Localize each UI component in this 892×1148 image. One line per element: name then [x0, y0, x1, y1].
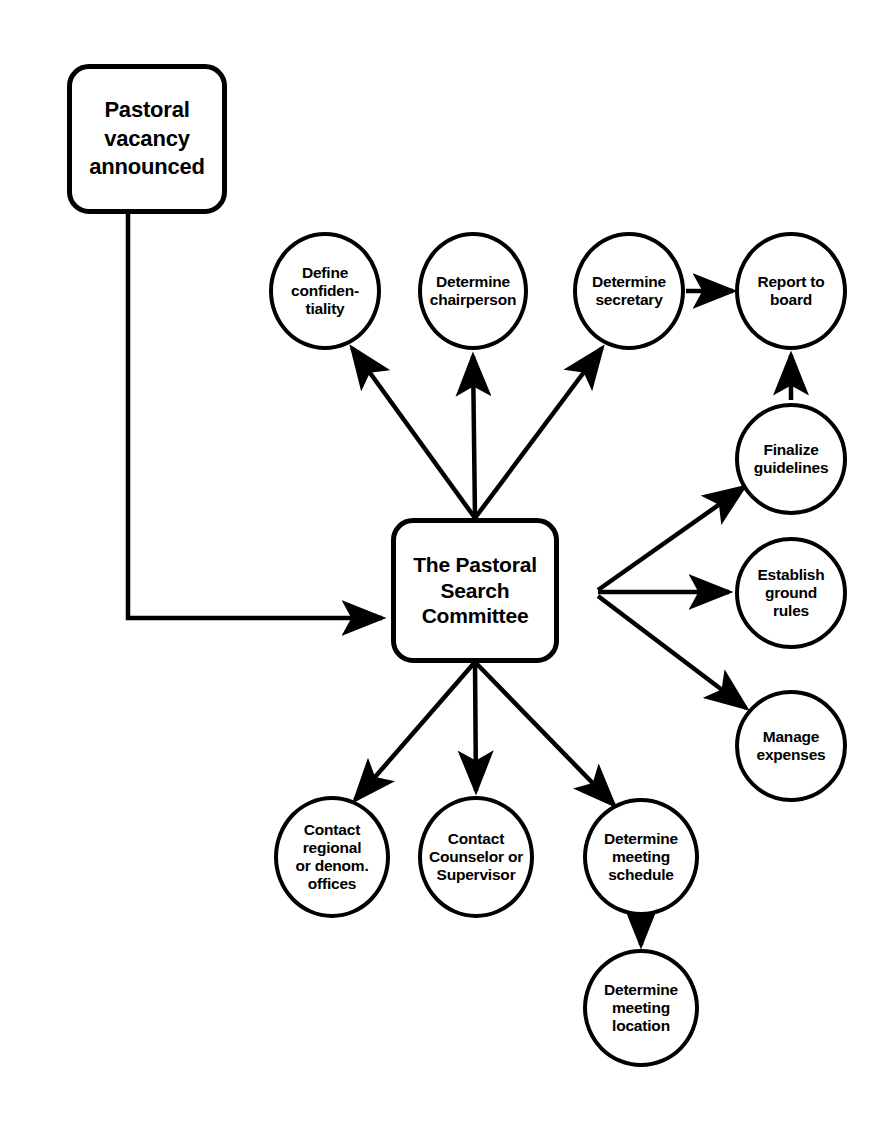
- node-label: Determine secretary: [590, 273, 668, 309]
- node-label: Determine meeting schedule: [602, 830, 680, 884]
- node-label: Contact Counselor or Supervisor: [427, 830, 525, 884]
- edge-committee-to-determine-secretary: [475, 348, 602, 518]
- edge-committee-to-finalize-guidelines: [598, 487, 744, 590]
- node-report-to-board[interactable]: Report to board: [735, 232, 847, 350]
- node-determine-chairperson[interactable]: Determine chairperson: [418, 232, 528, 350]
- node-label: Finalize guidelines: [752, 441, 831, 477]
- node-contact-regional-or-denom-offices[interactable]: Contact regional or denom. offices: [274, 796, 390, 918]
- node-manage-expenses[interactable]: Manage expenses: [735, 690, 847, 802]
- node-label: Define confiden- tiality: [289, 264, 361, 318]
- edge-committee-to-contact-regional: [355, 662, 475, 800]
- edge-committee-to-manage-expenses: [598, 596, 746, 708]
- node-determine-secretary[interactable]: Determine secretary: [573, 232, 685, 350]
- node-finalize-guidelines[interactable]: Finalize guidelines: [735, 403, 847, 515]
- node-label: Determine meeting location: [602, 981, 680, 1035]
- node-establish-ground-rules[interactable]: Establish ground rules: [735, 537, 847, 649]
- node-label: Contact regional or denom. offices: [293, 821, 370, 893]
- edge-committee-to-define-confidentiality: [352, 348, 475, 518]
- edge-committee-to-contact-counselor: [475, 662, 476, 791]
- node-label: Determine chairperson: [428, 273, 519, 309]
- node-pastoral-vacancy-announced[interactable]: Pastoral vacancy announced: [67, 64, 227, 214]
- node-label: Manage expenses: [754, 728, 827, 764]
- node-the-pastoral-search-committee[interactable]: The Pastoral Search Committee: [391, 518, 559, 663]
- node-define-confidentiality[interactable]: Define confiden- tiality: [269, 232, 381, 350]
- node-label: Pastoral vacancy announced: [87, 96, 207, 182]
- node-determine-meeting-schedule[interactable]: Determine meeting schedule: [583, 798, 699, 916]
- node-determine-meeting-location[interactable]: Determine meeting location: [583, 949, 699, 1067]
- edge-committee-to-determine-meeting-schedule: [475, 662, 614, 805]
- node-label: Establish ground rules: [755, 566, 826, 620]
- node-label: Report to board: [755, 273, 826, 309]
- pastoral-search-committee-diagram: Pastoral vacancy announced The Pastoral …: [0, 0, 892, 1148]
- node-label: The Pastoral Search Committee: [411, 552, 539, 629]
- node-contact-counselor-or-supervisor[interactable]: Contact Counselor or Supervisor: [418, 796, 534, 918]
- edge-committee-to-determine-chairperson: [473, 356, 475, 518]
